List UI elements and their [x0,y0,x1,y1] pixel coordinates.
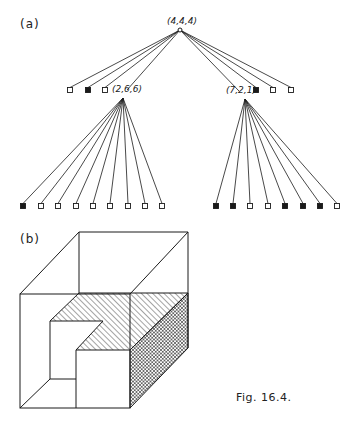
cube-diagram [0,0,361,427]
figure-caption: Fig. 16.4. [236,391,292,404]
